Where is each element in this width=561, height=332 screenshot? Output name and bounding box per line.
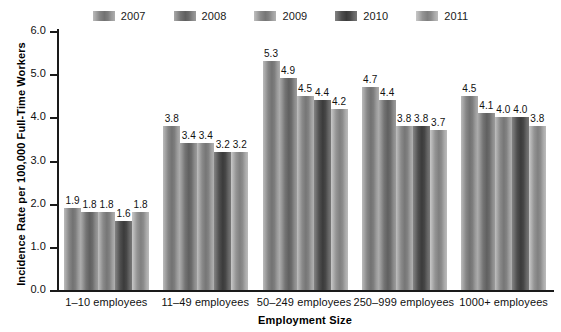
bar-rect[interactable] [379,100,396,290]
bar-rect[interactable] [214,152,231,290]
bar-rect[interactable] [81,212,98,290]
x-axis-category-label: 1000+ employees [454,296,553,308]
bar-2008[interactable]: 3.4 [180,31,197,290]
bar-2009[interactable]: 3.4 [197,31,214,290]
legend-item-2011[interactable]: 2011 [416,11,468,22]
bar-rect[interactable] [512,117,529,290]
y-axis-tick: 1.0 [50,247,57,249]
bar-rect[interactable] [413,126,430,290]
bar-rect[interactable] [180,143,197,290]
bar-value-label: 3.4 [182,131,196,141]
bar-value-label: 4.2 [332,97,346,107]
bar-rect[interactable] [280,78,297,290]
legend-swatch-icon [416,11,438,21]
y-axis-tick-label: 3.0 [30,154,46,166]
bar-value-label: 4.0 [496,105,510,115]
bar-group: 3.83.43.43.23.2 [156,31,255,290]
bar-2007[interactable]: 5.3 [263,31,280,290]
bar-value-label: 3.8 [165,114,179,124]
y-axis-title: Incidence Rate per 100,000 Full-Time Wor… [15,34,27,294]
bar-rect[interactable] [115,221,132,290]
bar-rect[interactable] [430,130,447,290]
bar-2010[interactable]: 1.6 [115,31,132,290]
bar-group-bars: 5.34.94.54.44.2 [255,31,354,290]
bar-group-bars: 3.83.43.43.23.2 [156,31,255,290]
bar-2008[interactable]: 1.8 [81,31,98,290]
bar-group-bars: 4.54.14.04.03.8 [454,31,553,290]
bar-value-label: 4.4 [380,88,394,98]
bar-2011[interactable]: 1.8 [132,31,149,290]
bar-2007[interactable]: 4.5 [461,31,478,290]
bar-value-label: 4.1 [479,101,493,111]
bar-2008[interactable]: 4.4 [379,31,396,290]
bar-2009[interactable]: 4.5 [297,31,314,290]
bar-2007[interactable]: 4.7 [362,31,379,290]
y-axis-tick-label: 6.0 [30,24,46,36]
bar-2007[interactable]: 3.8 [163,31,180,290]
legend-swatch-icon [93,11,115,21]
legend-swatch-icon [254,11,276,21]
bar-2009[interactable]: 1.8 [98,31,115,290]
bar-rect[interactable] [529,126,546,290]
y-axis-tick-label: 5.0 [30,67,46,79]
bar-2010[interactable]: 3.2 [214,31,231,290]
bar-value-label: 4.7 [363,75,377,85]
y-axis-tick: 4.0 [50,117,57,119]
bar-value-label: 4.4 [315,88,329,98]
legend-swatch-icon [174,11,196,21]
legend-item-2009[interactable]: 2009 [254,11,307,22]
bar-value-label: 3.8 [397,114,411,124]
bar-value-label: 3.7 [431,118,445,128]
bar-rect[interactable] [163,126,180,290]
y-axis-tick: 2.0 [50,204,57,206]
legend-item-2010[interactable]: 2010 [335,11,388,22]
y-axis-tick-label: 0.0 [30,283,46,295]
bar-rect[interactable] [362,87,379,290]
bar-2007[interactable]: 1.9 [64,31,81,290]
bar-2009[interactable]: 3.8 [396,31,413,290]
bar-2011[interactable]: 4.2 [331,31,348,290]
bar-value-label: 5.3 [264,49,278,59]
bar-2010[interactable]: 4.0 [512,31,529,290]
bar-chart: 20072008200920102011 Incidence Rate per … [0,0,561,332]
x-axis-line [57,290,554,292]
bar-rect[interactable] [231,152,248,290]
bar-rect[interactable] [461,96,478,290]
bar-group: 4.74.43.83.83.7 [355,31,454,290]
bar-rect[interactable] [197,143,214,290]
bar-2009[interactable]: 4.0 [495,31,512,290]
bar-value-label: 4.9 [281,66,295,76]
legend-label: 2008 [202,11,227,22]
bar-rect[interactable] [132,212,149,290]
legend-swatch-icon [335,11,357,21]
legend-label: 2009 [282,11,307,22]
bar-2010[interactable]: 4.4 [314,31,331,290]
bar-rect[interactable] [314,100,331,290]
bar-2011[interactable]: 3.8 [529,31,546,290]
x-axis-title: Employment Size [57,314,553,326]
bar-rect[interactable] [478,113,495,290]
y-axis-tick-label: 2.0 [30,197,46,209]
bar-2010[interactable]: 3.8 [413,31,430,290]
bar-2011[interactable]: 3.2 [231,31,248,290]
y-axis-tick-label: 4.0 [30,110,46,122]
bar-rect[interactable] [98,212,115,290]
bar-rect[interactable] [263,61,280,290]
bar-value-label: 3.8 [530,114,544,124]
legend-item-2008[interactable]: 2008 [174,11,227,22]
bar-rect[interactable] [396,126,413,290]
x-axis-tick-labels: 1–10 employees11–49 employees50–249 empl… [57,296,553,308]
bar-2011[interactable]: 3.7 [430,31,447,290]
bar-rect[interactable] [331,109,348,290]
bar-rect[interactable] [64,208,81,290]
bar-value-label: 3.4 [199,131,213,141]
legend-item-2007[interactable]: 2007 [93,11,146,22]
bar-rect[interactable] [495,117,512,290]
bar-value-label: 4.0 [513,105,527,115]
bar-value-label: 3.2 [233,140,247,150]
bar-2008[interactable]: 4.1 [478,31,495,290]
bar-value-label: 1.6 [116,209,130,219]
bar-2008[interactable]: 4.9 [280,31,297,290]
chart-legend: 20072008200920102011 [0,6,561,26]
bar-rect[interactable] [297,96,314,290]
